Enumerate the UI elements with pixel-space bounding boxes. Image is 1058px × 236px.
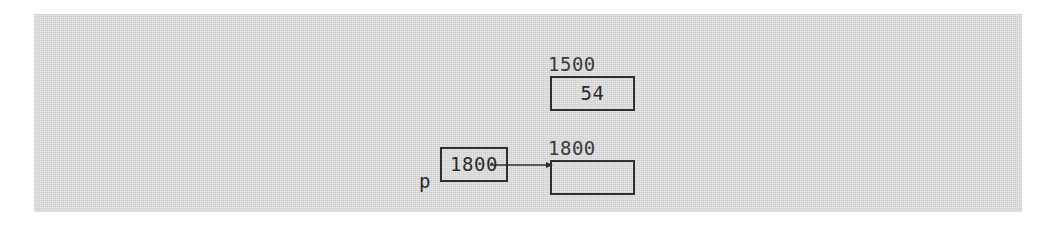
diagram-panel: 1500 54 1800 p 1800 [34,14,1022,212]
memory-cell-1500-value: 54 [581,84,605,103]
memory-cell-1500: 54 [550,76,635,111]
pointer-arrow-icon [490,154,560,176]
memory-cell-1800 [550,160,635,195]
figure-root: 1500 54 1800 p 1800 [0,0,1058,236]
address-label-1500: 1500 [548,55,596,74]
variable-label-p: p [419,172,430,191]
